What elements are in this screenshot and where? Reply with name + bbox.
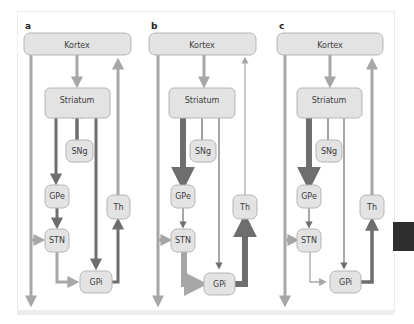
svg-text:Kortex: Kortex — [64, 41, 90, 50]
node-gpi: GPi — [204, 273, 235, 295]
edge-stn-gpi — [310, 252, 323, 282]
node-gpi: GPi — [80, 271, 112, 293]
svg-text:Th: Th — [239, 203, 250, 212]
node-sng: SNg — [66, 140, 93, 162]
node-gpe: GPe — [171, 185, 195, 208]
svg-text:GPi: GPi — [339, 278, 352, 287]
node-gpi: GPi — [330, 271, 361, 293]
panel-b: b Kortex Striatum SNg GPe ST — [149, 21, 257, 302]
svg-text:SNg: SNg — [195, 147, 211, 156]
svg-text:Kortex: Kortex — [189, 41, 215, 50]
node-gpe: GPe — [297, 185, 321, 208]
edge-gpi-th — [235, 224, 245, 284]
svg-text:GPi: GPi — [213, 280, 226, 289]
edge-gpi-th — [361, 223, 372, 282]
node-th: Th — [233, 195, 257, 219]
panel-c: c Kortex Striatum SNg GPe ST — [277, 21, 384, 302]
svg-text:STN: STN — [301, 236, 317, 245]
node-sng: SNg — [316, 140, 342, 162]
node-gpe: GPe — [45, 185, 69, 208]
svg-text:Th: Th — [366, 203, 377, 212]
svg-text:SNg: SNg — [71, 147, 87, 156]
edge-stn-gpi — [57, 252, 74, 282]
node-stn: STN — [297, 229, 321, 252]
svg-text:GPe: GPe — [301, 192, 317, 201]
svg-text:Striatum: Striatum — [60, 96, 95, 105]
panel-label-b: b — [151, 21, 158, 31]
node-striatum: Striatum — [297, 88, 362, 118]
node-kortex: Kortex — [277, 33, 383, 55]
node-striatum: Striatum — [45, 88, 110, 118]
basal-ganglia-diagram: a Kortex Striatum SNg GPe — [0, 0, 414, 324]
node-kortex: Kortex — [149, 33, 256, 55]
panel-label-c: c — [279, 21, 284, 31]
panel-label-a: a — [25, 21, 31, 31]
svg-text:STN: STN — [49, 236, 65, 245]
node-stn: STN — [171, 229, 195, 252]
svg-text:SNg: SNg — [321, 147, 337, 156]
node-sng: SNg — [190, 140, 216, 162]
node-striatum: Striatum — [169, 88, 235, 118]
svg-text:Striatum: Striatum — [312, 96, 347, 105]
svg-text:GPi: GPi — [89, 278, 102, 287]
node-th: Th — [107, 195, 130, 219]
svg-text:Th: Th — [113, 203, 124, 212]
node-th: Th — [360, 195, 384, 219]
svg-text:GPe: GPe — [175, 192, 191, 201]
svg-text:Striatum: Striatum — [185, 96, 220, 105]
svg-text:STN: STN — [175, 236, 191, 245]
svg-text:Kortex: Kortex — [317, 41, 343, 50]
edge-stn-gpi — [184, 252, 197, 284]
svg-text:GPe: GPe — [49, 192, 65, 201]
node-kortex: Kortex — [24, 33, 131, 55]
panel-a: a Kortex Striatum SNg GPe — [24, 21, 131, 302]
edge-gpi-th — [112, 223, 118, 282]
node-stn: STN — [45, 229, 69, 252]
